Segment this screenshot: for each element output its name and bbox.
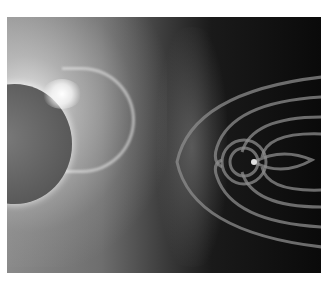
- space-weather-illustration: [7, 17, 321, 273]
- magnetosphere: [172, 72, 321, 252]
- earth: [251, 159, 257, 165]
- solar-flare: [42, 79, 82, 109]
